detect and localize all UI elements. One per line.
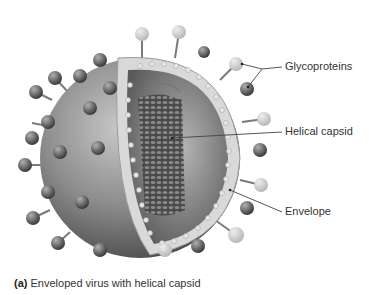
caption-marker: (a) bbox=[14, 277, 27, 289]
glycoproteins-leader bbox=[242, 64, 282, 69]
figure-caption: (a) Enveloped virus with helical capsid bbox=[14, 277, 201, 289]
label-helical-capsid: Helical capsid bbox=[285, 125, 353, 137]
label-envelope: Envelope bbox=[285, 205, 331, 217]
label-glycoproteins: Glycoproteins bbox=[285, 60, 352, 72]
helical-capsid-shape bbox=[138, 94, 185, 215]
envelope-leader bbox=[230, 190, 282, 212]
caption-text: Enveloped virus with helical capsid bbox=[31, 277, 201, 289]
virus-illustration bbox=[0, 0, 369, 295]
